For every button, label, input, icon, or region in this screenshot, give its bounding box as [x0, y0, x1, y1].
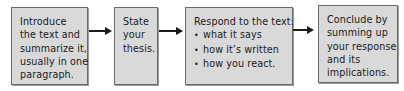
- step-conclude-box: Conclude by summing up your response and…: [318, 5, 398, 83]
- list-item: •how you react.: [194, 57, 292, 71]
- step-text-line: State: [123, 15, 157, 28]
- step-heading: Respond to the text:: [194, 15, 292, 28]
- step-text-line: paragraph.: [20, 68, 87, 81]
- bullet-text: how you react.: [203, 58, 276, 69]
- bullet-text: what it says: [203, 29, 262, 40]
- bullet-icon: •: [194, 44, 203, 57]
- bullet-icon: •: [194, 29, 203, 42]
- step-text-line: your response: [327, 40, 397, 53]
- step-text-line: implications.: [327, 66, 397, 79]
- step-text-line: usually in one: [20, 55, 87, 68]
- arrowhead-icon: [105, 27, 112, 35]
- arrowhead-icon: [176, 27, 183, 35]
- bullet-icon: •: [194, 58, 203, 71]
- step-text-line: Introduce: [20, 15, 87, 28]
- step-respond-box: Respond to the text: •what it says •how …: [185, 7, 293, 85]
- step-text-line: and its: [327, 53, 397, 66]
- step-text-line: the text and: [20, 28, 87, 41]
- arrowhead-icon: [307, 26, 314, 34]
- arrow-right-icon: [293, 29, 312, 31]
- step-introduce-box: Introduce the text and summarize it, usu…: [11, 7, 88, 85]
- step-text-line: summing up: [327, 26, 397, 39]
- step-text-line: thesis.: [123, 42, 157, 55]
- bullet-text: how it’s written: [203, 44, 279, 55]
- step-text-line: your: [123, 28, 157, 41]
- response-bullet-list: •what it says •how it’s written •how you…: [194, 28, 292, 71]
- step-text-line: Conclude by: [327, 13, 397, 26]
- list-item: •what it says: [194, 28, 292, 42]
- list-item: •how it’s written: [194, 43, 292, 57]
- arrow-right-icon: [159, 30, 181, 32]
- arrow-right-icon: [89, 30, 110, 32]
- step-thesis-box: State your thesis.: [114, 7, 158, 85]
- step-text-line: summarize it,: [20, 42, 87, 55]
